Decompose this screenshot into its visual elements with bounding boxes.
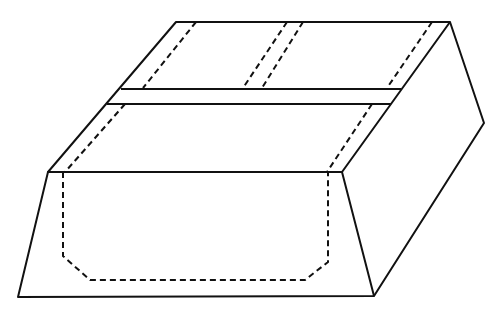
fold-line <box>143 22 196 88</box>
front-flap-outline <box>63 172 328 280</box>
box-diagram <box>0 0 503 321</box>
top-face <box>48 22 450 172</box>
front-face <box>18 172 374 297</box>
fold-line <box>65 104 125 172</box>
fold-line <box>262 22 303 88</box>
side-face <box>374 22 484 296</box>
fold-line <box>243 22 287 88</box>
box-illustration <box>0 0 503 321</box>
